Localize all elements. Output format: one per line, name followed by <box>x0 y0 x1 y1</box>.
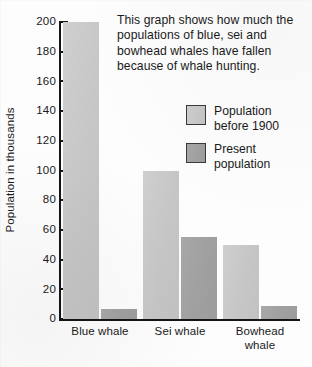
legend-swatch-before-1900 <box>186 105 206 125</box>
y-tick-label: 160 <box>36 75 56 87</box>
y-axis-line <box>59 21 61 320</box>
y-tick-label: 200 <box>36 16 56 28</box>
chart-description: This graph shows how much the population… <box>117 13 309 75</box>
legend-label-before-1900: Population before 1900 <box>214 104 279 133</box>
legend-label-present: Present population <box>214 142 270 171</box>
y-tick-label: 80 <box>43 194 56 206</box>
bar-sei-whale-series-2 <box>181 237 217 319</box>
bar-chart-figure: This graph shows how much the population… <box>0 0 312 367</box>
y-tick-label: 140 <box>36 105 56 117</box>
bar-blue-whale-series-1 <box>63 22 99 319</box>
y-tick-label: 40 <box>43 253 56 265</box>
bar-bowhead-whale-series-1 <box>223 245 259 319</box>
bar-sei-whale-series-1 <box>143 171 179 320</box>
legend-swatch-present <box>186 143 206 163</box>
y-tick-label: 120 <box>36 135 56 147</box>
y-tick-label: 20 <box>43 283 56 295</box>
legend-item-population-before-1900: Population before 1900 <box>186 104 279 133</box>
x-category-label-1: Blue whale <box>60 325 140 339</box>
y-tick-label: 60 <box>43 224 56 236</box>
y-tick-label: 0 <box>49 313 56 325</box>
y-axis-title: Population in thousands <box>4 107 16 232</box>
chart-legend: Population before 1900 Present populatio… <box>186 104 279 180</box>
x-category-label-2: Sei whale <box>140 325 220 339</box>
bar-blue-whale-series-2 <box>101 309 137 319</box>
x-category-label-3: Bowhead whale <box>220 325 300 352</box>
y-tick-label: 180 <box>36 45 56 57</box>
y-tick-label: 100 <box>36 164 56 176</box>
bar-bowhead-whale-series-2 <box>261 306 297 319</box>
legend-item-present-population: Present population <box>186 142 279 171</box>
x-axis-line <box>59 319 300 321</box>
